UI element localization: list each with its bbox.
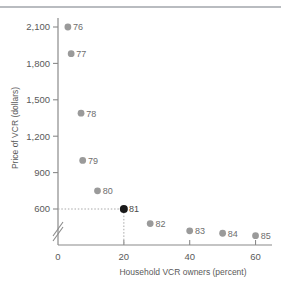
data-point-label: 85 — [261, 231, 271, 241]
x-tick-label: 60 — [250, 251, 261, 262]
y-tick-label: 1,200 — [26, 131, 50, 142]
data-point-label: 79 — [88, 156, 98, 166]
data-point: 78 — [78, 109, 97, 119]
data-point-label: 83 — [195, 226, 205, 236]
data-point-marker — [219, 230, 226, 237]
data-point-label: 76 — [73, 22, 83, 32]
chart-svg: 6009001,2001,5001,8002,100 0204060 76777… — [0, 0, 281, 283]
x-tick-label: 0 — [55, 251, 60, 262]
data-point-marker — [94, 187, 101, 194]
data-point-label: 82 — [155, 219, 165, 229]
x-tick-label: 20 — [119, 251, 130, 262]
y-tick-group: 6009001,2001,5001,8002,100 — [26, 21, 58, 214]
data-point-marker — [78, 110, 85, 117]
data-point-label: 78 — [86, 109, 96, 119]
y-axis-title: Price of VCR (dollars) — [10, 87, 20, 169]
x-axis-title: Household VCR owners (percent) — [119, 267, 246, 277]
data-point-marker — [68, 50, 75, 57]
data-point: 80 — [94, 186, 113, 196]
vcr-price-scatter-chart: 6009001,2001,5001,8002,100 0204060 76777… — [0, 0, 281, 283]
y-tick-label: 2,100 — [26, 21, 50, 32]
data-point-label: 84 — [228, 229, 238, 239]
x-tick-label: 40 — [184, 251, 195, 262]
data-point-marker — [186, 227, 193, 234]
data-point-label: 81 — [129, 204, 139, 214]
data-point: 76 — [64, 22, 83, 32]
data-point-marker — [79, 157, 86, 164]
data-point-label: 77 — [76, 49, 86, 59]
data-point: 83 — [186, 226, 205, 236]
data-point: 79 — [79, 156, 98, 166]
reference-guide-lines — [58, 209, 124, 245]
data-point: 85 — [252, 231, 271, 241]
y-tick-label: 900 — [34, 167, 50, 178]
data-point: 77 — [68, 49, 87, 59]
y-tick-label: 600 — [34, 203, 50, 214]
data-point-marker — [147, 220, 154, 227]
data-point-marker — [252, 232, 259, 239]
data-point-marker — [64, 24, 71, 31]
x-tick-group: 0204060 — [55, 240, 260, 262]
data-point: 81 — [120, 204, 139, 214]
data-point: 82 — [147, 219, 166, 229]
data-point-group: 76777879808182838485 — [64, 22, 270, 241]
y-tick-label: 1,800 — [26, 58, 50, 69]
data-point: 84 — [219, 229, 238, 239]
data-point-marker-highlighted — [120, 205, 128, 213]
data-point-label: 80 — [103, 186, 113, 196]
y-tick-label: 1,500 — [26, 94, 50, 105]
